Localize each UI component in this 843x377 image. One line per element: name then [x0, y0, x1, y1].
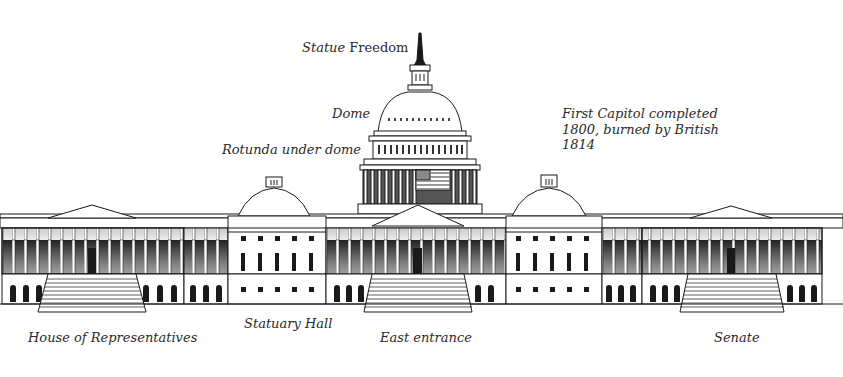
capitol-illustration: [0, 0, 843, 377]
label-statuary-hall: Statuary Hall: [244, 316, 332, 331]
label-senate: Senate: [714, 330, 760, 345]
flag: [416, 170, 450, 190]
label-rotunda: Rotunda under dome: [222, 142, 361, 157]
label-first-capitol: First Capitol completed 1800, burned by …: [562, 106, 719, 153]
statuary-hall-dome: [228, 177, 326, 304]
label-statue-italic: Statue: [302, 40, 345, 55]
senate-side-dome: [506, 175, 602, 304]
capitol-diagram: Statue Freedom Dome Rotunda under dome F…: [0, 0, 843, 377]
label-freedom-upright: Freedom: [345, 40, 408, 55]
label-statue-freedom: Statue Freedom: [302, 40, 408, 55]
label-house-of-representatives: House of Representatives: [28, 330, 197, 345]
label-dome: Dome: [332, 106, 370, 121]
label-east-entrance: East entrance: [380, 330, 472, 345]
dome: [358, 92, 482, 214]
statue-of-freedom: [408, 33, 432, 90]
